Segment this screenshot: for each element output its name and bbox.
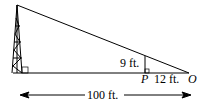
label-9ft: 9 ft. [120,56,139,70]
label-point-p: P [140,72,149,86]
diagram-canvas: 9 ft. P 12 ft. O 100 ft. [0,0,208,104]
label-12ft: 12 ft. [154,72,179,86]
label-100ft: 100 ft. [87,88,118,102]
label-point-o: O [188,72,197,86]
right-angle-marker-tower [22,67,28,73]
hypotenuse-line [17,5,189,73]
tower-icon [12,5,22,73]
